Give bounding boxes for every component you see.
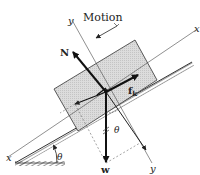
incline-free-body-diagram: Motion N w fk θ θ x x y y [0, 0, 200, 175]
x-axis-label-right: x [194, 23, 200, 34]
normal-force-label: N [60, 47, 69, 58]
weight-angle-label: θ [114, 125, 120, 135]
center-of-mass [104, 89, 108, 93]
motion-label: Motion [83, 11, 123, 24]
motion-arrow [96, 26, 117, 38]
x-axis-label-left: x [6, 152, 12, 163]
weight-label: w [100, 164, 110, 175]
diagram-canvas: Motion N w fk θ θ x x y y [0, 0, 200, 175]
y-axis-label-top: y [67, 15, 74, 26]
incline-angle-label: θ [57, 152, 63, 162]
y-axis-label-bottom: y [149, 163, 156, 174]
